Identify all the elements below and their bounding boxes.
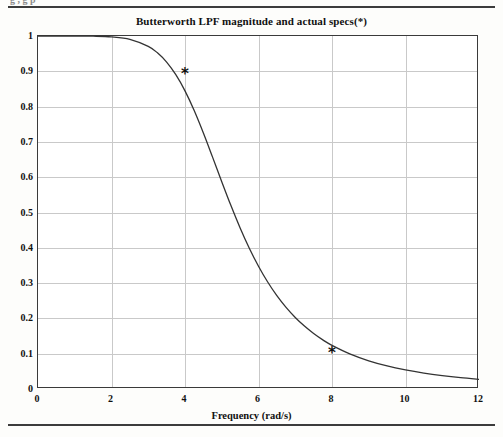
spec-marker: * xyxy=(328,346,336,361)
page-rule-top xyxy=(8,6,495,8)
y-tick-label: 0.2 xyxy=(3,312,33,323)
x-tick-label: 2 xyxy=(96,393,126,404)
x-tick-label: 10 xyxy=(390,393,420,404)
magnitude-response-curve xyxy=(38,36,479,389)
y-tick-label: 0.1 xyxy=(3,347,33,358)
y-tick-label: 0.8 xyxy=(3,100,33,111)
figure-butterworth-lpf: Butterworth LPF magnitude and actual spe… xyxy=(0,10,503,422)
y-tick-label: 0.5 xyxy=(3,206,33,217)
plot-area: ** xyxy=(37,35,478,388)
y-tick-label: 0.7 xyxy=(3,135,33,146)
scanned-page: g , g p Butterworth LPF magnitude and ac… xyxy=(0,0,503,437)
x-tick-label: 12 xyxy=(463,393,493,404)
x-tick-label: 6 xyxy=(243,393,273,404)
chart-title: Butterworth LPF magnitude and actual spe… xyxy=(0,15,503,27)
x-tick-label: 4 xyxy=(169,393,199,404)
x-tick-label: 8 xyxy=(316,393,346,404)
x-tick-label: 0 xyxy=(22,393,52,404)
y-tick-label: 0.9 xyxy=(3,65,33,76)
y-tick-label: 0.4 xyxy=(3,241,33,252)
y-tick-label: 0.3 xyxy=(3,277,33,288)
spec-marker: * xyxy=(181,67,189,82)
page-rule-bottom xyxy=(8,424,495,426)
y-tick-label: 1 xyxy=(3,30,33,41)
y-tick-label: 0 xyxy=(3,383,33,394)
x-axis-caption: Frequency (rad/s) xyxy=(0,410,503,421)
y-tick-label: 0.6 xyxy=(3,171,33,182)
